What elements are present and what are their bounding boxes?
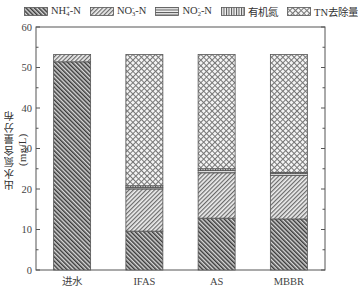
bar-3 [270,55,307,270]
x-tick-label: 进水 [62,276,83,287]
legend-swatch [155,7,179,16]
bar-segment [270,55,307,173]
legend-label: 有机氮 [248,4,278,19]
legend-swatch [287,7,311,16]
legend-label: NO-3-N [117,5,147,18]
bar-segment [198,173,235,218]
legend-swatch [90,7,114,16]
x-tick-label: AS [210,276,224,287]
legend-label: NO-2-N [182,5,212,18]
bar-segment [126,189,163,231]
bar-segment [270,175,307,219]
legend-item: NO-3-N [90,5,147,18]
y-tick-label: 0 [27,265,32,276]
y-tick-label: 10 [22,224,33,235]
y-tick-label: 60 [22,22,33,33]
legend-item: NO-2-N [155,5,212,18]
legend-swatch [221,7,245,16]
bar-segment [270,219,307,270]
legend-item: 有机氮 [221,4,278,19]
legend-label: NH+4-N [51,5,81,18]
bars [54,55,308,270]
legend-swatch [24,7,48,16]
y-tick-label: 50 [22,62,33,73]
legend-item: TN去除量 [287,4,358,19]
x-tick-label: IFAS [133,276,155,287]
bar-segment [54,55,91,62]
y-tick-label: 20 [22,184,33,195]
bar-segment [198,55,235,169]
bar-1 [126,55,163,270]
bar-2 [198,55,235,270]
bar-0 [54,55,91,270]
y-axis-label: 出水氮含量分布(mg/L) [2,95,16,205]
y-tick-label: 40 [22,103,33,114]
bar-segment [198,218,235,270]
legend-item: NH+4-N [24,5,81,18]
legend-label: TN去除量 [314,4,358,19]
bar-segment [54,62,91,270]
bar-segment [126,231,163,270]
x-tick-label: MBBR [274,276,304,287]
legend: NH+4-NNO-3-NNO-2-N有机氮TN去除量 [24,4,336,18]
bar-segment [126,55,163,186]
